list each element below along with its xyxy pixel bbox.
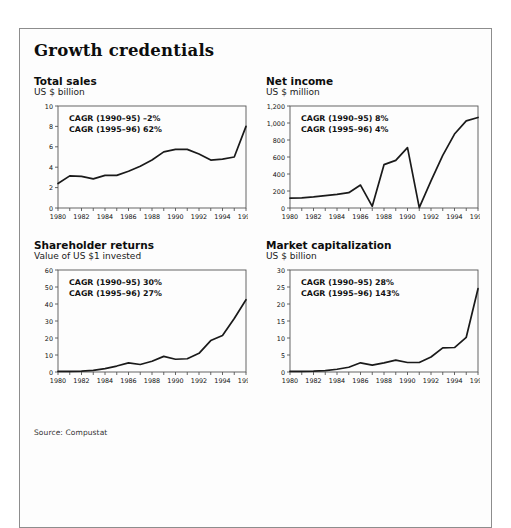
y-tick-label: 800 <box>273 137 285 145</box>
y-tick-label: 600 <box>273 154 285 162</box>
x-tick-label: 1988 <box>376 213 392 221</box>
x-tick-label: 1986 <box>120 213 136 221</box>
x-tick-label: 1982 <box>73 213 89 221</box>
data-line <box>290 289 478 372</box>
x-tick-label: 1984 <box>329 377 345 385</box>
y-tick-label: 5 <box>281 352 285 360</box>
chart-annotation: CAGR (1990–95) 28% <box>301 278 394 287</box>
y-tick-label: 10 <box>277 335 285 343</box>
x-tick-label: 1996 <box>238 213 248 221</box>
y-tick-label: 0 <box>49 369 53 377</box>
chart-row-top: Total sales US $ billion 024681019801982… <box>34 75 480 228</box>
chart-annotation: CAGR (1995–96) 27% <box>69 289 162 298</box>
chart-title-total-sales: Total sales <box>34 75 248 87</box>
chart-plot-net-income: 02004006008001,0001,20019801982198419861… <box>266 100 480 228</box>
x-tick-label: 1988 <box>144 213 160 221</box>
chart-plot-total-sales: 0246810198019821984198619881990199219941… <box>34 100 248 228</box>
y-tick-label: 30 <box>45 318 53 326</box>
x-tick-label: 1986 <box>352 377 368 385</box>
chart-grid: Total sales US $ billion 024681019801982… <box>34 75 480 392</box>
y-tick-label: 60 <box>45 267 53 275</box>
x-tick-label: 1988 <box>144 377 160 385</box>
x-tick-label: 1986 <box>352 213 368 221</box>
x-tick-label: 1982 <box>73 377 89 385</box>
x-tick-label: 1988 <box>376 377 392 385</box>
x-tick-label: 1994 <box>446 377 462 385</box>
x-tick-label: 1984 <box>97 213 113 221</box>
x-tick-label: 1996 <box>238 377 248 385</box>
chart-annotation: CAGR (1995–96) 143% <box>301 289 400 298</box>
x-tick-label: 1980 <box>282 213 298 221</box>
chart-panel-net-income: Net income US $ million 02004006008001,0… <box>266 75 480 228</box>
chart-title-net-income: Net income <box>266 75 480 87</box>
x-tick-label: 1982 <box>305 377 321 385</box>
y-tick-label: 1,000 <box>267 120 285 128</box>
chart-row-bottom: Shareholder returns Value of US $1 inves… <box>34 239 480 392</box>
chart-plot-shareholder-returns: 0102030405060198019821984198619881990199… <box>34 264 248 392</box>
x-tick-label: 1992 <box>191 377 207 385</box>
y-tick-label: 4 <box>49 164 53 172</box>
x-tick-label: 1994 <box>214 213 230 221</box>
y-tick-label: 20 <box>277 301 285 309</box>
chart-panel-shareholder-returns: Shareholder returns Value of US $1 inves… <box>34 239 248 392</box>
chart-annotation: CAGR (1990–95) –2% <box>69 114 160 123</box>
x-tick-label: 1992 <box>191 213 207 221</box>
source-note: Source: Compustat <box>34 428 107 437</box>
x-tick-label: 1994 <box>214 377 230 385</box>
y-tick-label: 0 <box>49 205 53 213</box>
y-tick-label: 6 <box>49 143 53 151</box>
x-tick-label: 1986 <box>120 377 136 385</box>
y-tick-label: 200 <box>273 188 285 196</box>
page-title: Growth credentials <box>34 41 214 60</box>
y-tick-label: 0 <box>281 369 285 377</box>
y-tick-label: 25 <box>277 284 285 292</box>
x-tick-label: 1992 <box>423 213 439 221</box>
y-tick-label: 50 <box>45 284 53 292</box>
chart-annotation: CAGR (1995–96) 4% <box>301 125 389 134</box>
chart-title-market-capitalization: Market capitalization <box>266 239 480 251</box>
y-tick-label: 10 <box>45 352 53 360</box>
chart-svg-market-capitalization: 0510152025301980198219841986198819901992… <box>266 264 480 392</box>
x-tick-label: 1982 <box>305 213 321 221</box>
chart-subtitle-net-income: US $ million <box>266 87 480 98</box>
chart-subtitle-shareholder-returns: Value of US $1 invested <box>34 251 248 262</box>
y-tick-label: 10 <box>45 103 53 111</box>
y-tick-label: 15 <box>277 318 285 326</box>
x-tick-label: 1980 <box>50 377 66 385</box>
y-tick-label: 30 <box>277 267 285 275</box>
chart-panel-total-sales: Total sales US $ billion 024681019801982… <box>34 75 248 228</box>
y-tick-label: 1,200 <box>267 103 285 111</box>
x-tick-label: 1984 <box>97 377 113 385</box>
x-tick-label: 1990 <box>167 377 183 385</box>
y-tick-label: 2 <box>49 184 53 192</box>
chart-subtitle-market-capitalization: US $ billion <box>266 251 480 262</box>
x-tick-label: 1980 <box>50 213 66 221</box>
chart-plot-market-capitalization: 0510152025301980198219841986198819901992… <box>266 264 480 392</box>
x-tick-label: 1990 <box>399 213 415 221</box>
exhibit-frame: Growth credentials Total sales US $ bill… <box>19 28 492 528</box>
x-tick-label: 1984 <box>329 213 345 221</box>
x-tick-label: 1990 <box>167 213 183 221</box>
chart-annotation: CAGR (1990–95) 30% <box>69 278 162 287</box>
y-tick-label: 400 <box>273 171 285 179</box>
x-tick-label: 1992 <box>423 377 439 385</box>
y-tick-label: 0 <box>281 205 285 213</box>
chart-svg-shareholder-returns: 0102030405060198019821984198619881990199… <box>34 264 248 392</box>
y-tick-label: 20 <box>45 335 53 343</box>
data-line <box>58 300 246 372</box>
x-tick-label: 1994 <box>446 213 462 221</box>
chart-annotation: CAGR (1995–96) 62% <box>69 125 162 134</box>
chart-subtitle-total-sales: US $ billion <box>34 87 248 98</box>
y-tick-label: 8 <box>49 123 53 131</box>
data-line <box>58 126 246 183</box>
chart-svg-total-sales: 0246810198019821984198619881990199219941… <box>34 100 248 228</box>
x-tick-label: 1996 <box>470 213 480 221</box>
x-tick-label: 1990 <box>399 377 415 385</box>
chart-title-shareholder-returns: Shareholder returns <box>34 239 248 251</box>
x-tick-label: 1980 <box>282 377 298 385</box>
y-tick-label: 40 <box>45 301 53 309</box>
x-tick-label: 1996 <box>470 377 480 385</box>
chart-svg-net-income: 02004006008001,0001,20019801982198419861… <box>266 100 480 228</box>
chart-annotation: CAGR (1990–95) 8% <box>301 114 389 123</box>
chart-panel-market-capitalization: Market capitalization US $ billion 05101… <box>266 239 480 392</box>
